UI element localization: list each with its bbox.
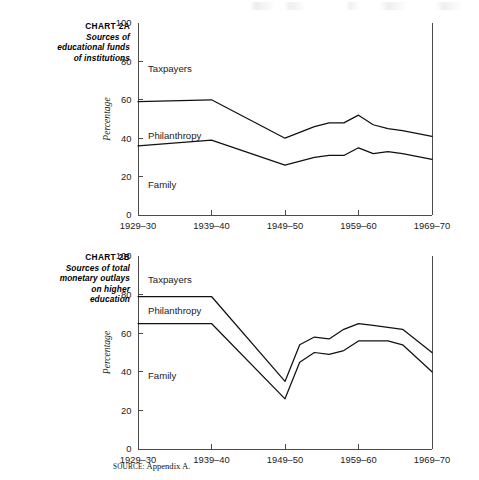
x-axis-tick-label: 1929–30 (120, 220, 157, 231)
x-axis-tick-label: 1949–50 (267, 220, 304, 231)
x-axis-tick-label: 1969–70 (414, 454, 451, 465)
series-annotation-label: Philanthropy (148, 130, 202, 141)
chart-2b-plot: 020406080100Percentage1929–301939–401949… (0, 243, 479, 458)
y-axis-tick-label: 20 (121, 171, 131, 182)
y-axis-tick-label: 60 (121, 94, 131, 105)
source-note-text: Appendix A. (146, 461, 190, 471)
y-axis-tick-label: 60 (121, 328, 131, 339)
series-annotation-label: Family (148, 179, 176, 190)
x-axis-tick-label: 1959–60 (340, 220, 377, 231)
y-axis-tick-label: 100 (116, 17, 132, 28)
chart-series-line (138, 324, 432, 399)
y-axis-tick-label: 100 (116, 250, 132, 261)
y-axis-title: Percentage (101, 97, 112, 142)
series-annotation-label: Philanthropy (148, 305, 202, 316)
x-axis-tick-label: 1939–40 (193, 220, 230, 231)
source-note-label: SOURCE: (113, 463, 145, 471)
series-annotation-label: Taxpayers (148, 274, 192, 285)
y-axis-tick-label: 80 (121, 289, 131, 300)
y-axis-title: Percentage (101, 330, 112, 375)
source-note: SOURCE: Appendix A. (113, 461, 190, 471)
series-annotation-label: Family (148, 370, 176, 381)
y-axis-tick-label: 40 (121, 366, 131, 377)
chart-2b-block: CHART 2B Sources of total monetary outla… (0, 243, 479, 458)
x-axis-tick-label: 1949–50 (267, 454, 304, 465)
y-axis-tick-label: 20 (121, 405, 131, 416)
x-axis-tick-label: 1959–60 (340, 454, 377, 465)
x-axis-tick-label: 1939–40 (193, 454, 230, 465)
page-bleed-artifact (250, 2, 470, 10)
y-axis-tick-label: 80 (121, 56, 131, 67)
x-axis-tick-label: 1969–70 (414, 220, 451, 231)
chart-2a-plot: 020406080100Percentage1929–301939–401949… (0, 10, 479, 238)
series-annotation-label: Taxpayers (148, 63, 192, 74)
y-axis-tick-label: 40 (121, 133, 131, 144)
chart-2a-block: CHART 2A Sources of educational funds of… (0, 10, 479, 238)
chart-series-line (138, 140, 432, 165)
